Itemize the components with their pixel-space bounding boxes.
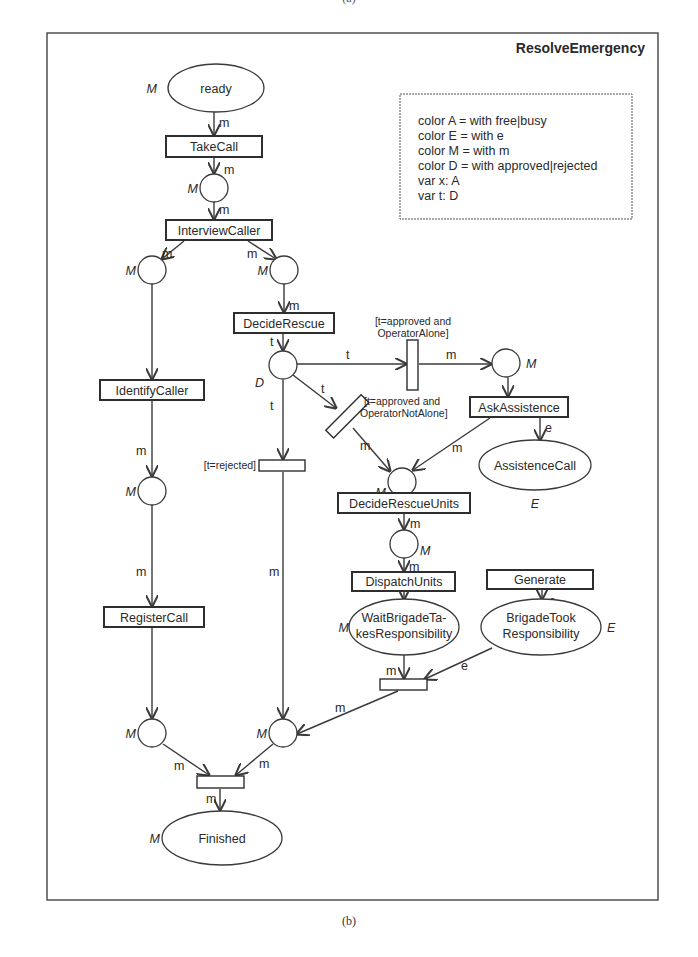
svg-text:DecideRescueUnits: DecideRescueUnits bbox=[349, 497, 459, 511]
svg-text:BrigadeTook: BrigadeTook bbox=[506, 611, 576, 625]
svg-text:M: M bbox=[420, 544, 431, 558]
declaration-line: var x: A bbox=[418, 174, 460, 188]
svg-text:M: M bbox=[526, 357, 537, 371]
place-assist-in[interactable]: M bbox=[492, 349, 537, 377]
svg-text:InterviewCaller: InterviewCaller bbox=[178, 224, 261, 238]
declaration-line: color D = with approved|rejected bbox=[418, 159, 597, 173]
arc-label: m bbox=[162, 247, 172, 261]
arc-label: m bbox=[269, 565, 279, 579]
arc-label: m bbox=[136, 565, 146, 579]
arc-label: m bbox=[206, 792, 216, 806]
guard-operator-alone-line2: OperatorAlone] bbox=[377, 327, 448, 339]
arc-label: m bbox=[174, 759, 184, 773]
arc-label: m bbox=[247, 247, 257, 261]
guard-operator-not-alone-line1: [t=approved and bbox=[364, 395, 440, 407]
svg-text:ready: ready bbox=[200, 82, 232, 96]
transition-interview-caller[interactable]: InterviewCaller bbox=[166, 220, 272, 240]
arc-label: t bbox=[346, 348, 350, 362]
place-left-end[interactable]: M bbox=[126, 719, 166, 747]
place-brigade-took-responsibility[interactable]: BrigadeTook Responsibility E bbox=[481, 599, 616, 655]
svg-text:M: M bbox=[258, 264, 269, 278]
svg-text:M: M bbox=[126, 727, 137, 741]
declaration-line: color A = with free|busy bbox=[418, 114, 547, 128]
transition-dispatch-units[interactable]: DispatchUnits bbox=[352, 572, 455, 591]
arc-label: m bbox=[289, 299, 299, 313]
transition-register-call[interactable]: RegisterCall bbox=[104, 607, 204, 627]
arc-label: m bbox=[386, 664, 396, 678]
arc-label: t bbox=[270, 335, 274, 349]
place-identify-in[interactable]: M bbox=[126, 256, 166, 284]
svg-text:DispatchUnits: DispatchUnits bbox=[365, 575, 442, 589]
transition-ask-assistence[interactable]: AskAssistence bbox=[470, 397, 568, 417]
svg-text:M: M bbox=[150, 832, 161, 846]
transition-brigade-sync[interactable] bbox=[380, 679, 427, 690]
arc-label: m bbox=[259, 757, 269, 771]
svg-text:M: M bbox=[147, 82, 158, 96]
svg-text:M: M bbox=[257, 727, 268, 741]
svg-text:D: D bbox=[255, 376, 264, 390]
diagram-title: ResolveEmergency bbox=[516, 40, 645, 56]
place-ready[interactable]: ready M bbox=[147, 64, 264, 112]
svg-text:M: M bbox=[188, 182, 199, 196]
declaration-line: var t: D bbox=[418, 189, 458, 203]
place-decision[interactable]: D bbox=[255, 351, 297, 390]
svg-text:DecideRescue: DecideRescue bbox=[243, 317, 324, 331]
place-dispatch-in[interactable]: M bbox=[390, 530, 431, 558]
place-finished[interactable]: Finished M bbox=[150, 811, 282, 865]
svg-text:M: M bbox=[339, 621, 350, 635]
svg-text:E: E bbox=[607, 621, 616, 635]
place-mid-end[interactable]: M bbox=[257, 719, 297, 747]
declarations-box: color A = with free|busy color E = with … bbox=[400, 94, 632, 219]
svg-text:RegisterCall: RegisterCall bbox=[120, 611, 188, 625]
arc-label: e bbox=[461, 659, 468, 673]
svg-text:AskAssistence: AskAssistence bbox=[478, 401, 559, 415]
svg-text:Responsibility: Responsibility bbox=[502, 627, 580, 641]
svg-text:kesResponsibility: kesResponsibility bbox=[356, 627, 453, 641]
svg-text:Generate: Generate bbox=[514, 573, 566, 587]
arc-label: e bbox=[545, 421, 552, 435]
transition-rejected[interactable] bbox=[259, 460, 305, 471]
arc-label: m bbox=[410, 517, 420, 531]
figure-caption: (b) bbox=[0, 914, 698, 929]
transition-operator-alone[interactable] bbox=[407, 340, 418, 390]
place-after-takecall[interactable]: M bbox=[188, 174, 228, 202]
transition-decide-rescue[interactable]: DecideRescue bbox=[234, 313, 334, 333]
svg-text:TakeCall: TakeCall bbox=[190, 140, 238, 154]
guard-operator-alone-line1: [t=approved and bbox=[375, 315, 451, 327]
svg-text:M: M bbox=[126, 485, 137, 499]
declaration-line: color E = with e bbox=[418, 129, 504, 143]
place-decide-in[interactable]: M bbox=[258, 256, 298, 284]
svg-text:Finished: Finished bbox=[198, 832, 245, 846]
arc-label: m bbox=[219, 203, 229, 217]
arc-label: m bbox=[136, 444, 146, 458]
svg-text:IdentifyCaller: IdentifyCaller bbox=[116, 384, 189, 398]
transition-decide-rescue-units[interactable]: DecideRescueUnits bbox=[338, 493, 470, 513]
arc-label: m bbox=[335, 701, 345, 715]
arc-label: m bbox=[360, 439, 370, 453]
declaration-line: color M = with m bbox=[418, 144, 509, 158]
transition-finish-join[interactable] bbox=[197, 776, 244, 788]
arc-label: m bbox=[224, 163, 234, 177]
transition-take-call[interactable]: TakeCall bbox=[166, 136, 262, 157]
svg-text:WaitBrigadeTa-: WaitBrigadeTa- bbox=[362, 611, 447, 625]
svg-text:AssistenceCall: AssistenceCall bbox=[494, 459, 576, 473]
guard-operator-not-alone-line2: OperatorNotAlone] bbox=[360, 407, 448, 419]
arc-label: m bbox=[219, 116, 229, 130]
transition-generate[interactable]: Generate bbox=[487, 570, 593, 589]
guard-rejected: [t=rejected] bbox=[204, 459, 256, 471]
place-register-in[interactable]: M bbox=[126, 477, 166, 505]
transition-identify-caller[interactable]: IdentifyCaller bbox=[100, 380, 204, 400]
svg-text:M: M bbox=[126, 264, 137, 278]
place-wait-brigade[interactable]: WaitBrigadeTa- kesResponsibility M bbox=[339, 599, 459, 655]
arc-label: t bbox=[321, 382, 325, 396]
arc-label: t bbox=[270, 399, 274, 413]
arc-label: m bbox=[452, 441, 462, 455]
svg-text:E: E bbox=[531, 497, 540, 511]
arc-label: m bbox=[446, 348, 456, 362]
place-assistence-call[interactable]: AssistenceCall E bbox=[479, 440, 591, 511]
petri-net-diagram: ResolveEmergency color A = with free|bus… bbox=[0, 0, 698, 957]
